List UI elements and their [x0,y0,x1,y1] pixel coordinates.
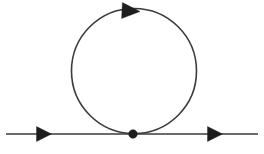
interaction-vertex-dot [129,130,138,139]
outgoing-arrow-icon [208,127,223,142]
diagram-canvas [0,0,264,154]
loop-arrow-icon [122,3,141,20]
incoming-arrow-icon [37,127,52,142]
loop-propagator-circle [72,9,197,134]
feynman-diagram-figure: Feynman diagram: a straight horizontal f… [0,0,264,154]
